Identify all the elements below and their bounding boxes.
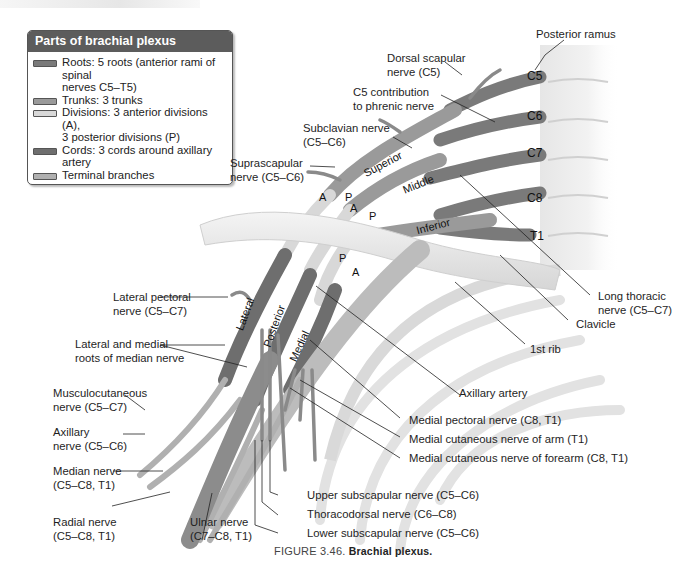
- label-suprascapular-nerve: Suprascapular nerve (C5–C6): [230, 157, 304, 184]
- label-first-rib: 1st rib: [530, 343, 561, 357]
- label-subclavian-nerve: Subclavian nerve (C5–C6): [303, 122, 390, 149]
- vertebral-column: [540, 45, 620, 270]
- legend-title: Parts of brachial plexus: [28, 31, 232, 52]
- root-label-c6: C6: [527, 109, 542, 123]
- legend-item-terminal: Terminal branches: [33, 169, 227, 182]
- label-dorsal-scapular-nerve: Dorsal scapular nerve (C5): [387, 52, 465, 79]
- label-radial-nerve: Radial nerve (C5–C8, T1): [53, 516, 116, 543]
- label-posterior-ramus: Posterior ramus: [536, 28, 616, 42]
- trunks-swatch-icon: [33, 98, 57, 105]
- figure-number: FIGURE 3.46.: [274, 545, 345, 557]
- division-label-a1: A: [319, 191, 326, 203]
- label-thoracodorsal-nerve: Thoracodorsal nerve (C6–C8): [307, 508, 456, 522]
- legend-item-roots: Roots: 5 roots (anterior rami of spinal …: [33, 56, 227, 94]
- label-c5-phrenic: C5 contribution to phrenic nerve: [353, 86, 434, 113]
- label-medial-cutaneous-forearm: Medial cutaneous nerve of forearm (C8, T…: [409, 452, 628, 466]
- label-median-roots: Lateral and medial roots of median nerve: [75, 338, 184, 365]
- label-medial-pectoral-nerve: Medial pectoral nerve (C8, T1): [409, 414, 561, 428]
- label-upper-subscapular-nerve: Upper subscapular nerve (C5–C6): [307, 489, 479, 503]
- label-ulnar-nerve: Ulnar nerve (C7–C8, T1): [190, 516, 252, 543]
- division-label-p3: P: [339, 252, 346, 264]
- label-median-nerve: Median nerve (C5–C8, T1): [53, 465, 121, 492]
- legend-item-trunks: Trunks: 3 trunks: [33, 94, 227, 107]
- roots-swatch-icon: [33, 60, 57, 67]
- root-label-c5: C5: [527, 69, 542, 83]
- legend-items: Roots: 5 roots (anterior rami of spinal …: [28, 52, 232, 184]
- label-musculocutaneous-nerve: Musculocutaneous nerve (C5–C7): [53, 387, 147, 414]
- figure-title: Brachial plexus.: [349, 545, 433, 557]
- legend-item-divisions: Divisions: 3 anterior divisions (A), 3 p…: [33, 106, 227, 144]
- nerve-roots: [430, 77, 540, 235]
- cords-swatch-icon: [33, 148, 57, 155]
- label-lower-subscapular-nerve: Lower subscapular nerve (C5–C6): [307, 527, 479, 541]
- figure-caption: FIGURE 3.46. Brachial plexus.: [274, 545, 432, 557]
- legend-box: Parts of brachial plexus Roots: 5 roots …: [27, 30, 233, 185]
- label-axillary-nerve: Axillary nerve (C5–C6): [53, 426, 127, 453]
- root-label-c8: C8: [527, 191, 542, 205]
- divisions-swatch-icon: [33, 110, 57, 117]
- label-medial-cutaneous-arm: Medial cutaneous nerve of arm (T1): [409, 433, 588, 447]
- division-label-a2: A: [350, 202, 357, 214]
- label-clavicle: Clavicle: [576, 318, 616, 332]
- root-label-c7: C7: [527, 146, 542, 160]
- legend-item-cords: Cords: 3 cords around axillary artery: [33, 144, 227, 169]
- root-label-t1: T1: [530, 229, 544, 243]
- label-lateral-pectoral-nerve: Lateral pectoral nerve (C5–C7): [113, 291, 191, 318]
- terminal-swatch-icon: [33, 173, 57, 180]
- division-label-a3: A: [352, 266, 359, 278]
- label-long-thoracic-nerve: Long thoracic nerve (C5–C7): [598, 290, 672, 317]
- division-label-p2: P: [369, 210, 376, 222]
- label-axillary-artery: Axillary artery: [459, 387, 527, 401]
